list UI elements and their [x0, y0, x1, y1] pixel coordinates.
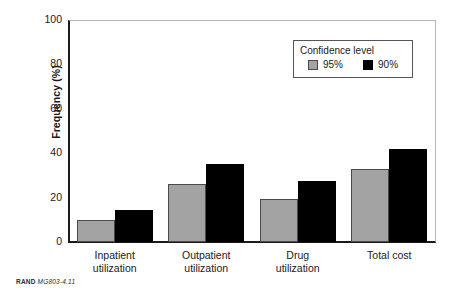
legend-items: 95% 90% — [300, 59, 406, 70]
y-tick-label: 100 — [26, 14, 62, 25]
y-tick-label: 20 — [26, 192, 62, 203]
legend: Confidence level 95% 90% — [293, 40, 413, 78]
x-axis-label: Inpatientutilization — [69, 249, 161, 274]
bar-3-0 — [351, 169, 389, 242]
footer-brand: RAND — [16, 278, 36, 285]
figure-source-note: RANDMG803-4.11 — [16, 278, 75, 285]
x-axis-label-line: Inpatient — [69, 249, 161, 262]
x-axis-label-line: Outpatient — [161, 249, 253, 262]
bar-3-1 — [389, 149, 427, 242]
legend-entry-95: 95% — [308, 59, 343, 70]
legend-label-95: 95% — [323, 59, 343, 70]
x-axis-label: Drugutilization — [252, 249, 344, 274]
chart-figure: Frequency (%) 020406080100 Inpatientutil… — [0, 0, 461, 299]
y-tick-label: 40 — [26, 147, 62, 158]
legend-label-90: 90% — [378, 59, 398, 70]
x-axis-label: Outpatientutilization — [161, 249, 253, 274]
x-axis-label-line: utilization — [69, 262, 161, 275]
x-axis-label-line: Drug — [252, 249, 344, 262]
bar-2-1 — [298, 181, 336, 242]
x-axis-label-line: utilization — [161, 262, 253, 275]
bar-0-0 — [77, 220, 115, 242]
bar-0-1 — [115, 210, 153, 242]
gray-swatch-icon — [308, 60, 318, 70]
footer-code: MG803-4.11 — [38, 278, 76, 285]
legend-title: Confidence level — [300, 44, 406, 57]
x-axis-label-line: Total cost — [344, 249, 436, 262]
legend-entry-90: 90% — [363, 59, 398, 70]
bar-2-0 — [260, 199, 298, 242]
y-tick-label: 80 — [26, 58, 62, 69]
bar-1-1 — [206, 164, 244, 242]
y-tick-label: 60 — [26, 103, 62, 114]
black-swatch-icon — [363, 60, 373, 70]
bar-1-0 — [168, 184, 206, 242]
y-tick-label: 0 — [26, 236, 62, 247]
x-axis-label-line: utilization — [252, 262, 344, 275]
x-axis-label: Total cost — [344, 249, 436, 262]
